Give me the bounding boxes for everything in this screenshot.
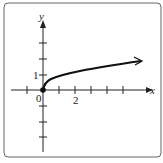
frame-border [4, 3, 161, 157]
origin-label: 0 [36, 92, 42, 104]
y-tick-label-1: 1 [33, 69, 39, 81]
y-axis-label: y [38, 10, 44, 22]
chart-svg: y x 1 0 2 [0, 0, 163, 163]
x-axis-label: x [149, 84, 155, 96]
x-tick-label-2: 2 [73, 94, 79, 106]
